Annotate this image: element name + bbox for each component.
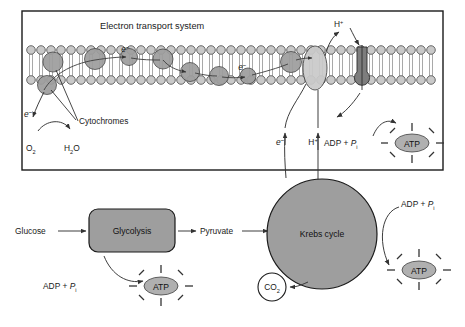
- terminal-oxidation-arrows: [33, 92, 70, 131]
- glycolysis-atp-burst: ATP: [129, 265, 193, 306]
- glycolysis-atp-arrow: [104, 256, 143, 282]
- cytochrome-9: [281, 52, 302, 73]
- krebs-adp-label: ADP + Pi: [401, 199, 434, 211]
- respiration-diagram: Electron transport system: [0, 0, 465, 327]
- krebs-cycle-label: Krebs cycle: [300, 229, 345, 239]
- pyruvate-label: Pyruvate: [200, 226, 233, 236]
- ets-atp-burst: ATP: [381, 123, 444, 163]
- glycolysis-adp-label: ADP + Pi: [43, 281, 76, 293]
- ets-adp-label: ADP + Pi: [324, 138, 357, 150]
- cytochrome-6: [181, 63, 200, 82]
- ets-title: Electron transport system: [100, 21, 205, 31]
- cytochrome-2: [43, 52, 63, 72]
- electron-flow-path: [44, 57, 312, 90]
- krebs-to-ets-carriers: [285, 84, 318, 180]
- ets-atp-label: ATP: [404, 139, 420, 149]
- electron-bottom-label: e–: [276, 137, 285, 147]
- chemiosmosis-arrows: [337, 93, 396, 136]
- electron-carrier-protein: [303, 46, 327, 90]
- atp-synthase-channel: [354, 45, 369, 90]
- cytochromes-label: Cytochromes: [79, 116, 128, 126]
- glucose-label: Glucose: [15, 226, 46, 236]
- krebs-atp-label: ATP: [411, 266, 427, 276]
- oxygen-label: O2: [26, 143, 36, 155]
- ets-panel-border: [22, 11, 443, 170]
- glycolysis-atp-label: ATP: [153, 282, 169, 292]
- water-label: H2O: [64, 143, 80, 155]
- proton-top-label: H+: [334, 19, 343, 29]
- krebs-atp-burst: ATP: [387, 249, 451, 290]
- proton-bottom-label: H+: [308, 137, 317, 147]
- glycolysis-label: Glycolysis: [113, 226, 152, 236]
- diagram-canvas: Electron transport system: [0, 0, 465, 327]
- krebs-atp-arrow: [382, 207, 399, 265]
- electron-left-label: e–: [24, 109, 33, 119]
